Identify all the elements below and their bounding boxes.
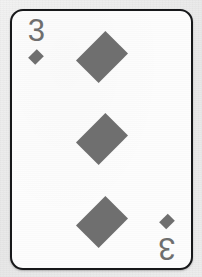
rank-label-bottom-right: 3 bbox=[159, 233, 176, 262]
pip-slot-middle bbox=[74, 111, 130, 167]
diamond-pip-icon-center-bottom bbox=[75, 196, 127, 248]
diamond-pip-icon-bottom-right bbox=[159, 215, 175, 231]
diamond-pip-icon-center-middle bbox=[75, 113, 127, 165]
diamond-pip-icon-center-top bbox=[75, 31, 127, 83]
pip-slot-top bbox=[74, 29, 130, 85]
corner-index-top-left: 3 bbox=[19, 17, 53, 62]
corner-index-bottom-right: 3 bbox=[150, 217, 184, 262]
rank-label-top-left: 3 bbox=[28, 17, 45, 46]
playing-card[interactable]: 3 3 bbox=[10, 9, 193, 270]
pip-slot-bottom bbox=[74, 194, 130, 250]
card-scene: 3 3 bbox=[0, 0, 202, 277]
